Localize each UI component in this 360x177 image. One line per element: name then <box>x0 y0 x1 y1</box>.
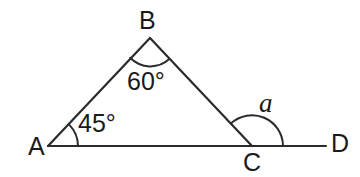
angle-label-c-unknown: a <box>259 90 273 117</box>
segment-BC <box>150 38 252 146</box>
vertex-label-a: A <box>28 134 45 159</box>
geometry-canvas <box>0 0 360 177</box>
angle-arc-a-45 <box>70 125 78 146</box>
vertex-label-c: C <box>243 150 261 175</box>
angle-label-a-45: 45° <box>78 111 116 136</box>
angle-label-b-60: 60° <box>127 69 165 94</box>
vertex-label-b: B <box>139 8 156 33</box>
geometry-diagram: A B C D 45° 60° a <box>0 0 360 177</box>
angle-arc-b-60 <box>130 58 169 67</box>
vertex-label-d: D <box>331 131 349 156</box>
